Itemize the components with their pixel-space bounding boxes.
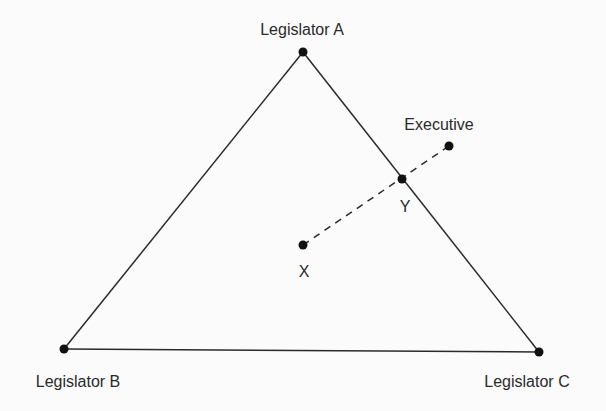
executive-label: Executive — [404, 116, 473, 133]
y-label: Y — [400, 198, 411, 215]
legislator-b-dot — [60, 345, 69, 354]
executive-dot — [445, 142, 454, 151]
legislator-c-dot — [535, 348, 544, 357]
dashed-line-x-to-executive — [303, 146, 449, 245]
y-dot — [398, 175, 407, 184]
spatial-triangle-diagram: Legislator A Legislator B Legislator C E… — [0, 0, 606, 411]
x-dot — [299, 241, 308, 250]
edge-b-c — [64, 349, 539, 352]
legislator-a-label: Legislator A — [260, 21, 344, 38]
edge-a-b — [64, 52, 303, 349]
legislator-c-label: Legislator C — [484, 373, 569, 390]
legislator-a-dot — [299, 48, 308, 57]
legislator-b-label: Legislator B — [36, 373, 121, 390]
x-label: X — [299, 263, 310, 280]
edge-a-c — [303, 52, 539, 352]
